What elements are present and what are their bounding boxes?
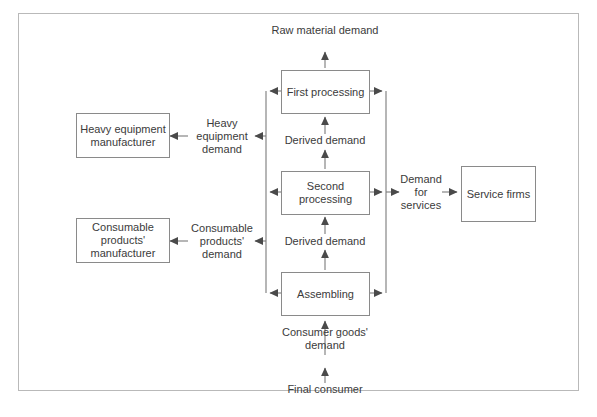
label-heavy-equipment-demand: Heavy equipment demand	[191, 117, 253, 156]
diagram-canvas: First processing Second processing Assem…	[0, 0, 597, 417]
node-first-processing[interactable]: First processing	[281, 70, 370, 114]
label-final-consumer: Final consumer	[272, 383, 378, 396]
label-raw-material-demand: Raw material demand	[265, 24, 385, 37]
node-second-processing-label: Second processing	[282, 180, 369, 206]
node-consumable-products-manufacturer-label: Consumable products' manufacturer	[77, 221, 169, 260]
node-assembling-label: Assembling	[294, 288, 357, 301]
node-service-firms-label: Service firms	[464, 188, 534, 201]
label-derived-demand-upper-text: Derived demand	[285, 134, 366, 146]
node-assembling[interactable]: Assembling	[281, 272, 370, 316]
label-demand-for-services-text: Demand for services	[400, 173, 442, 211]
label-final-consumer-text: Final consumer	[287, 383, 362, 395]
node-second-processing[interactable]: Second processing	[281, 171, 370, 215]
node-first-processing-label: First processing	[284, 86, 368, 99]
label-demand-for-services: Demand for services	[400, 173, 442, 212]
label-consumable-products-demand: Consumable products' demand	[189, 222, 255, 261]
label-consumable-products-demand-text: Consumable products' demand	[191, 222, 253, 260]
label-derived-demand-lower: Derived demand	[267, 235, 383, 248]
node-consumable-products-manufacturer[interactable]: Consumable products' manufacturer	[76, 218, 170, 263]
label-derived-demand-upper: Derived demand	[267, 134, 383, 147]
label-consumer-goods-demand-text: Consumer goods' demand	[282, 326, 368, 351]
node-service-firms[interactable]: Service firms	[461, 166, 536, 222]
label-raw-material-demand-text: Raw material demand	[272, 24, 379, 36]
node-heavy-equipment-manufacturer-label: Heavy equipment manufacturer	[77, 123, 169, 149]
node-heavy-equipment-manufacturer[interactable]: Heavy equipment manufacturer	[76, 113, 170, 158]
label-derived-demand-lower-text: Derived demand	[285, 235, 366, 247]
label-consumer-goods-demand: Consumer goods' demand	[262, 326, 388, 352]
label-heavy-equipment-demand-text: Heavy equipment demand	[196, 117, 247, 155]
